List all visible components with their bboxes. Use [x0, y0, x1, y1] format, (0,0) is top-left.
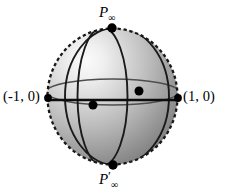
- label-left-real-point: (-1, 0): [3, 89, 40, 104]
- label-north-pole: P∞: [99, 5, 115, 20]
- label-south-pole-subscript: ∞: [111, 179, 118, 190]
- riemann-sphere-figure: (-1, 0) (1, 0) P∞ P′∞: [0, 0, 226, 194]
- origin-intersection-point: [89, 101, 98, 110]
- label-north-pole-symbol: P: [99, 4, 108, 20]
- sphere-body: [48, 29, 178, 165]
- right-real-point: [174, 94, 182, 102]
- label-right-real-point: (1, 0): [183, 89, 215, 104]
- label-north-pole-subscript: ∞: [108, 12, 115, 23]
- left-real-point: [44, 94, 52, 102]
- label-south-pole-prime: ′: [107, 168, 110, 183]
- north-pole-point: [107, 23, 116, 32]
- label-south-pole: P′∞: [99, 172, 118, 187]
- equator-intersection-point: [135, 87, 144, 96]
